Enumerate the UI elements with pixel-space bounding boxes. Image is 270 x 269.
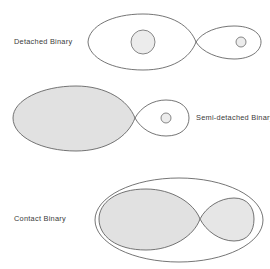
contact-secondary-roche-lobe (200, 198, 254, 241)
panel-contact-binary: Contact Binary (14, 178, 263, 262)
binary-star-diagram-canvas: Detached Binary Semi-detached Binary Con… (0, 0, 270, 269)
contact-binary-label: Contact Binary (14, 214, 66, 223)
panel-semi-detached-binary: Semi-detached Binary (13, 86, 270, 151)
semi-detached-secondary-star (161, 113, 171, 123)
detached-primary-star (131, 30, 155, 54)
semi-detached-binary-label: Semi-detached Binary (196, 113, 270, 122)
detached-secondary-star (236, 37, 246, 47)
roche-lobe-diagram: Detached Binary Semi-detached Binary Con… (0, 0, 270, 269)
semi-detached-primary-roche-lobe (13, 86, 135, 151)
panel-detached-binary: Detached Binary (14, 14, 261, 70)
detached-binary-label: Detached Binary (14, 37, 72, 46)
contact-primary-roche-lobe (99, 189, 200, 250)
detached-secondary-roche-lobe (196, 26, 261, 59)
